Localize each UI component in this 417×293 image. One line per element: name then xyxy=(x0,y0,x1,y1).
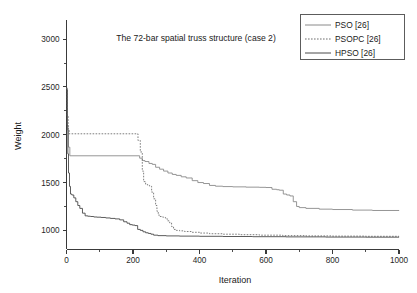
y-axis-ticks: 10001500200025003000 xyxy=(41,35,66,235)
legend-label: PSO [26] xyxy=(335,20,369,30)
x-tick-label: 200 xyxy=(126,256,140,265)
x-tick-label: 1000 xyxy=(390,256,409,265)
x-tick-label: 800 xyxy=(326,256,340,265)
chart-figure: 10001500200025003000 02004006008001000 T… xyxy=(0,0,417,293)
chart-legend[interactable]: PSO [26]PSOPC [26]HPSO [26] xyxy=(301,15,405,60)
y-tick-label: 3000 xyxy=(41,35,60,44)
y-tick-label: 2000 xyxy=(41,131,60,140)
x-tick-label: 600 xyxy=(259,256,273,265)
y-tick-label: 1000 xyxy=(41,226,60,235)
x-tick-label: 400 xyxy=(193,256,207,265)
legend-label: HPSO [26] xyxy=(335,48,375,58)
series-line-pso xyxy=(67,89,400,211)
chart-title: The 72-bar spatial truss structure (case… xyxy=(116,33,276,43)
x-axis-ticks: 02004006008001000 xyxy=(64,250,408,265)
y-tick-label: 2500 xyxy=(41,83,60,92)
series-line-psopc xyxy=(67,88,400,237)
series-line-hpso xyxy=(67,90,400,237)
y-tick-label: 1500 xyxy=(41,179,60,188)
y-axis-label: Weight xyxy=(13,122,23,150)
line-chart: 10001500200025003000 02004006008001000 T… xyxy=(0,0,417,293)
legend-label: PSOPC [26] xyxy=(335,34,381,44)
x-axis-label: Iteration xyxy=(219,275,252,285)
data-series-layer xyxy=(67,88,400,237)
x-tick-label: 0 xyxy=(64,256,69,265)
